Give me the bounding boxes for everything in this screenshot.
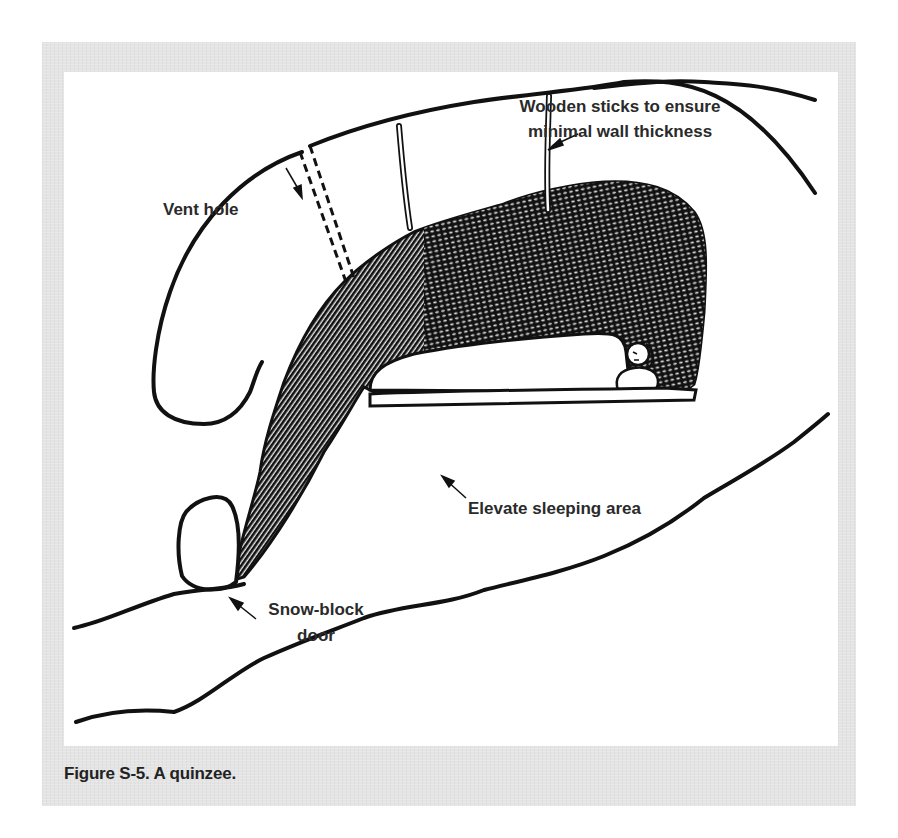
figure-panel: Wooden sticks to ensure minimal wall thi…: [64, 72, 838, 746]
label-vent-hole: Vent hole: [163, 198, 239, 222]
label-door-line2: door: [297, 624, 335, 648]
quinzee-illustration: [64, 72, 838, 746]
label-sleeping-area: Elevate sleeping area: [468, 497, 641, 521]
dome-outer-left: [154, 152, 302, 424]
label-door-line1: Snow-block: [268, 598, 363, 622]
snow-block-door: [179, 497, 239, 589]
figure-caption: Figure S-5. A quinzee.: [64, 764, 236, 784]
vent-hole: [300, 152, 346, 282]
arrow-vent: [286, 168, 302, 198]
sleeper-head: [627, 343, 649, 365]
arrow-door: [230, 598, 256, 619]
figure-frame: Wooden sticks to ensure minimal wall thi…: [42, 42, 856, 806]
label-sticks-line1: Wooden sticks to ensure: [520, 95, 721, 119]
label-sticks-line2: minimal wall thickness: [528, 120, 712, 144]
arrow-sleeping: [442, 476, 466, 498]
